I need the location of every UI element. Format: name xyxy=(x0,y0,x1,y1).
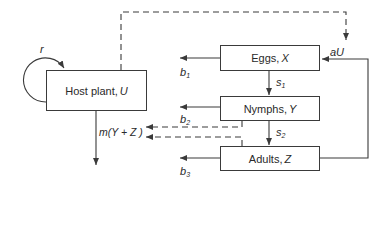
aU-label: aU xyxy=(330,47,344,58)
b1-label: b1 xyxy=(180,67,190,79)
host-plant-node: Host plant, U xyxy=(46,70,147,111)
m-dashed-arrow-adults xyxy=(146,137,242,146)
adults-var: Z xyxy=(284,153,291,165)
nymphs-var: Y xyxy=(289,103,296,115)
adults-label: Adults, xyxy=(249,153,283,165)
eggs-label: Eggs, xyxy=(251,52,279,64)
m-label: m(Y + Z ) xyxy=(99,127,143,138)
host-plant-label: Host plant, xyxy=(65,85,118,97)
r-label: r xyxy=(40,44,44,55)
host-plant-var: U xyxy=(120,85,128,97)
b2-label: b2 xyxy=(180,114,190,126)
feedback-arrow xyxy=(320,59,368,158)
m-dashed-arrow-nymphs xyxy=(146,121,242,127)
s1-label: s1 xyxy=(276,77,285,89)
eggs-node: Eggs, X xyxy=(220,45,320,71)
adults-node: Adults, Z xyxy=(220,146,320,171)
eggs-var: X xyxy=(281,52,288,64)
nymphs-label: Nymphs, xyxy=(244,103,287,115)
nymphs-node: Nymphs, Y xyxy=(220,96,320,121)
b3-label: b3 xyxy=(180,166,190,178)
s2-label: s2 xyxy=(276,127,285,139)
